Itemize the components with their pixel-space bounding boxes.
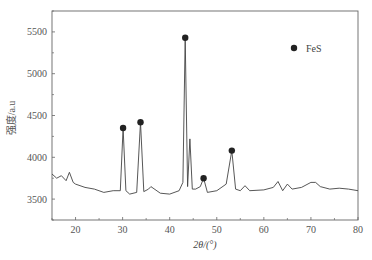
- peak-markers: [120, 35, 235, 182]
- fes-peak-marker-icon: [200, 175, 206, 181]
- fes-peak-marker-icon: [182, 35, 188, 41]
- y-tick-label: 5500: [27, 26, 47, 37]
- legend-marker-icon: [291, 45, 297, 51]
- x-tick-label: 80: [353, 224, 363, 235]
- x-tick-label: 50: [212, 224, 222, 235]
- x-tick-label: 30: [118, 224, 128, 235]
- xrd-chart: 2030405060708035004000450050005500 FeS 2…: [0, 0, 372, 260]
- y-tick-label: 4000: [27, 152, 47, 163]
- x-tick-label: 40: [165, 224, 175, 235]
- y-tick-label: 3500: [27, 194, 47, 205]
- xrd-curve: [52, 38, 358, 194]
- fes-peak-marker-icon: [137, 119, 143, 125]
- y-tick-label: 4500: [27, 110, 47, 121]
- x-tick-label: 20: [71, 224, 81, 235]
- y-axis-label: 强度/a.u: [5, 101, 17, 136]
- y-tick-label: 5000: [27, 68, 47, 79]
- legend: FeS: [291, 43, 322, 54]
- x-tick-label: 70: [306, 224, 316, 235]
- x-axis-label: 2θ/(°): [193, 239, 217, 251]
- x-tick-label: 60: [259, 224, 269, 235]
- fes-peak-marker-icon: [120, 125, 126, 131]
- fes-peak-marker-icon: [229, 147, 235, 153]
- legend-label: FeS: [306, 43, 322, 54]
